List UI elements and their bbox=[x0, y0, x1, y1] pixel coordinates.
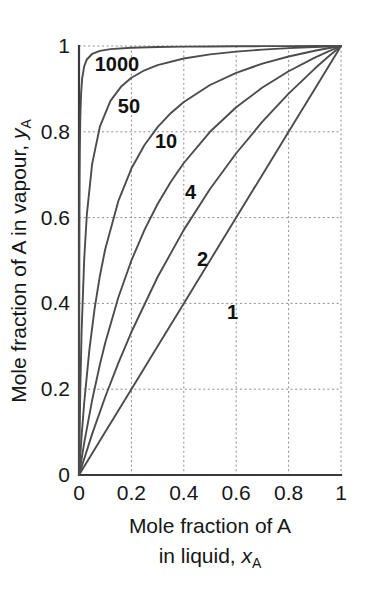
y-tick-label: 1 bbox=[58, 34, 70, 57]
y-axis-title-prefix: Mole fraction of A in vapour, bbox=[7, 139, 30, 403]
curve-label-1000: 1000 bbox=[95, 53, 140, 75]
curve-label-4: 4 bbox=[185, 181, 197, 203]
y-tick-label: 0.4 bbox=[41, 291, 71, 314]
x-axis-title-line1: Mole fraction of A bbox=[129, 514, 291, 537]
x-tick-label: 0.4 bbox=[169, 481, 199, 504]
x-axis-title-prefix: in liquid, bbox=[159, 544, 242, 567]
x-tick-label: 1 bbox=[335, 481, 347, 504]
y-tick-label: 0.6 bbox=[41, 206, 70, 229]
x-tick-label: 0.2 bbox=[117, 481, 146, 504]
y-axis-title-text: Mole fraction of A in vapour, yA bbox=[7, 119, 34, 403]
vle-equilibrium-chart: 10005010421 00.20.40.60.81 00.20.40.60.8… bbox=[0, 0, 375, 601]
x-axis-subscript: A bbox=[252, 555, 262, 571]
x-tick-labels: 00.20.40.60.81 bbox=[73, 481, 347, 504]
curve-label-10: 10 bbox=[155, 130, 177, 152]
y-tick-label: 0.2 bbox=[41, 377, 70, 400]
y-axis-subscript: A bbox=[18, 119, 34, 129]
x-tick-label: 0 bbox=[73, 481, 85, 504]
x-axis-title-line2: in liquid, xA bbox=[159, 544, 262, 571]
x-tick-label: 0.8 bbox=[274, 481, 303, 504]
x-axis-title: Mole fraction of A in liquid, xA bbox=[129, 514, 291, 571]
y-tick-label: 0.8 bbox=[41, 120, 70, 143]
curve-label-2: 2 bbox=[197, 248, 208, 270]
y-tick-label: 0 bbox=[58, 463, 70, 486]
chart-canvas: 10005010421 00.20.40.60.81 00.20.40.60.8… bbox=[0, 0, 375, 601]
x-tick-label: 0.6 bbox=[222, 481, 251, 504]
y-axis-title: Mole fraction of A in vapour, yA bbox=[7, 119, 34, 403]
curve-label-50: 50 bbox=[118, 95, 140, 117]
curve-label-1: 1 bbox=[227, 301, 238, 323]
y-tick-labels: 00.20.40.60.81 bbox=[41, 34, 71, 486]
